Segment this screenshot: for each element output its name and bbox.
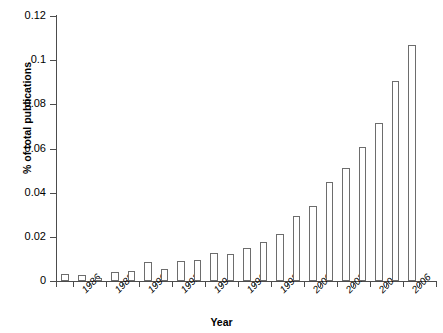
y-axis-tick-label: 0.04 bbox=[25, 187, 46, 198]
bar bbox=[161, 269, 169, 281]
bar bbox=[359, 147, 367, 281]
bar bbox=[177, 261, 185, 281]
x-axis-tick bbox=[436, 282, 437, 287]
y-axis-tick bbox=[50, 104, 56, 105]
bar bbox=[392, 81, 400, 281]
x-axis-tick bbox=[221, 282, 222, 287]
bar bbox=[375, 123, 383, 281]
x-axis-tick bbox=[254, 282, 255, 287]
y-axis-tick-label: 0 bbox=[40, 275, 46, 286]
x-axis-tick bbox=[304, 282, 305, 287]
bar bbox=[276, 234, 284, 281]
x-axis-tick bbox=[188, 282, 189, 287]
y-axis-tick bbox=[50, 149, 56, 150]
x-axis-tick bbox=[122, 282, 123, 287]
x-axis-tick bbox=[403, 282, 404, 287]
x-axis-tick bbox=[238, 282, 239, 287]
bar bbox=[408, 45, 416, 281]
x-axis-tick bbox=[106, 282, 107, 287]
bar bbox=[309, 206, 317, 281]
bar bbox=[78, 275, 86, 281]
bar bbox=[194, 260, 202, 281]
x-axis-tick bbox=[337, 282, 338, 287]
bar bbox=[111, 272, 119, 281]
bar bbox=[227, 254, 235, 281]
y-axis-tick bbox=[50, 60, 56, 61]
bar bbox=[293, 216, 301, 281]
x-axis-tick bbox=[172, 282, 173, 287]
bar bbox=[144, 262, 152, 281]
x-axis-tick bbox=[205, 282, 206, 287]
y-axis-tick-label: 0.1 bbox=[31, 54, 46, 65]
bar bbox=[326, 182, 334, 281]
y-axis-tick bbox=[50, 193, 56, 194]
bar bbox=[243, 248, 251, 281]
bar bbox=[210, 253, 218, 281]
x-axis-tick bbox=[419, 282, 420, 287]
bar bbox=[95, 278, 103, 281]
x-axis-tick bbox=[271, 282, 272, 287]
x-axis-tick bbox=[73, 282, 74, 287]
y-axis-tick-label: 0.06 bbox=[25, 143, 46, 154]
y-axis-tick-label: 0.08 bbox=[25, 98, 46, 109]
y-axis-tick-label: 0.02 bbox=[25, 231, 46, 242]
x-axis-tick bbox=[89, 282, 90, 287]
y-axis-tick-label: 0.12 bbox=[25, 10, 46, 21]
x-axis-tick bbox=[320, 282, 321, 287]
y-axis-tick bbox=[50, 237, 56, 238]
bar bbox=[61, 274, 69, 281]
bar bbox=[260, 242, 268, 281]
x-axis-tick bbox=[370, 282, 371, 287]
chart-container: % of total publications Year 00.020.040.… bbox=[0, 0, 443, 333]
x-axis-tick bbox=[353, 282, 354, 287]
x-axis-tick bbox=[386, 282, 387, 287]
bar bbox=[128, 271, 136, 281]
bar bbox=[342, 168, 350, 281]
x-axis-tick bbox=[139, 282, 140, 287]
x-axis-tick bbox=[56, 282, 57, 287]
x-axis-tick bbox=[287, 282, 288, 287]
x-axis-title: Year bbox=[0, 316, 443, 328]
y-axis-tick bbox=[50, 16, 56, 17]
x-axis-tick bbox=[155, 282, 156, 287]
plot-area bbox=[57, 16, 437, 281]
